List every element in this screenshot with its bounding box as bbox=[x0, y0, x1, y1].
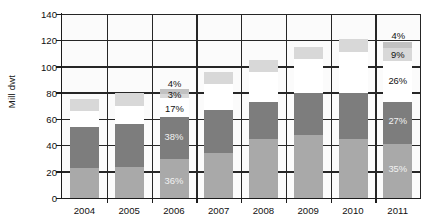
bar-label-2011-segment-4: 9% bbox=[383, 50, 412, 59]
bar-segment-2 bbox=[339, 93, 368, 139]
x-tick-mark bbox=[152, 198, 153, 203]
bar-segment-2 bbox=[70, 127, 99, 168]
gridline-vertical bbox=[420, 14, 421, 198]
bar-segment-2 bbox=[294, 93, 323, 135]
bar-segment-1 bbox=[204, 153, 233, 198]
bar-segment-1 bbox=[115, 167, 144, 199]
bar-label-2006-segment-4: 3% bbox=[152, 90, 198, 99]
chart-figure: Mill dwt 140 120 100 80 60 40 20 0 bbox=[0, 0, 431, 223]
bar-label-2011-segment-1: 35% bbox=[383, 164, 412, 173]
bar-label-2006-segment-3: 17% bbox=[152, 104, 198, 113]
bar-segment-3 bbox=[204, 84, 233, 110]
bar-label-2011-segment-5: 4% bbox=[375, 31, 421, 40]
y-tick-label-140: 140 bbox=[17, 10, 57, 20]
gridline-vertical bbox=[331, 14, 332, 198]
bar-segment-3 bbox=[339, 52, 368, 93]
bar-segment-3 bbox=[294, 59, 323, 93]
bar-segment-4 bbox=[115, 93, 144, 106]
bar-segment-2 bbox=[249, 102, 278, 139]
bar-segment-4 bbox=[70, 99, 99, 111]
gridline-vertical bbox=[107, 14, 108, 198]
gridline-vertical bbox=[375, 14, 376, 198]
bar-segment-5 bbox=[383, 42, 412, 49]
bar-segment-2 bbox=[115, 124, 144, 166]
bar-label-2006-segment-1: 36% bbox=[160, 176, 189, 185]
bar-segment-1: 36% bbox=[160, 159, 189, 198]
bar-label-2011-segment-3: 26% bbox=[383, 76, 412, 85]
bar-segment-4 bbox=[339, 39, 368, 52]
x-tick-mark bbox=[241, 198, 242, 203]
bar-segment-1 bbox=[339, 139, 368, 198]
bar-segment-1: 35% bbox=[383, 144, 412, 198]
y-axis-title: Mill dwt bbox=[6, 57, 17, 127]
y-tick-label-0: 0 bbox=[17, 194, 57, 204]
bar-segment-3 bbox=[70, 111, 99, 127]
bar-segment-3 bbox=[115, 106, 144, 124]
plot-area: 36% 38% 17% 3% 4% bbox=[62, 14, 420, 198]
x-tick-mark bbox=[107, 198, 108, 203]
x-tick-mark bbox=[375, 198, 376, 203]
bar-segment-2: 27% bbox=[383, 102, 412, 144]
bar-label-2006-segment-2: 38% bbox=[160, 132, 189, 141]
bar-segment-2: 38% bbox=[160, 117, 189, 159]
gridline-vertical bbox=[241, 14, 242, 198]
y-tick-label-100: 100 bbox=[17, 63, 57, 73]
x-tick-label-2011: 2011 bbox=[372, 205, 424, 216]
x-tick-mark bbox=[286, 198, 287, 203]
y-tick-label-60: 60 bbox=[17, 115, 57, 125]
bar-segment-1 bbox=[70, 168, 99, 198]
x-tick-mark bbox=[196, 198, 197, 203]
y-tick-label-40: 40 bbox=[17, 141, 57, 151]
bar-segment-4: 9% bbox=[383, 48, 412, 61]
bar-segment-4 bbox=[294, 47, 323, 59]
bar-label-2006-segment-5: 4% bbox=[152, 79, 198, 88]
bar-segment-1 bbox=[294, 135, 323, 198]
bar-segment-2 bbox=[204, 110, 233, 153]
bar-segment-1 bbox=[249, 139, 278, 198]
gridline-vertical bbox=[286, 14, 287, 198]
bar-label-2011-segment-2: 27% bbox=[383, 116, 412, 125]
bar-segment-3 bbox=[249, 72, 278, 102]
bar-segment-4 bbox=[249, 60, 278, 72]
bar-segment-4 bbox=[204, 72, 233, 84]
x-tick-mark bbox=[331, 198, 332, 203]
y-tick-label-80: 80 bbox=[17, 89, 57, 99]
y-tick-label-20: 20 bbox=[17, 168, 57, 178]
y-tick-label-120: 120 bbox=[17, 36, 57, 46]
bar-segment-3: 26% bbox=[383, 61, 412, 102]
